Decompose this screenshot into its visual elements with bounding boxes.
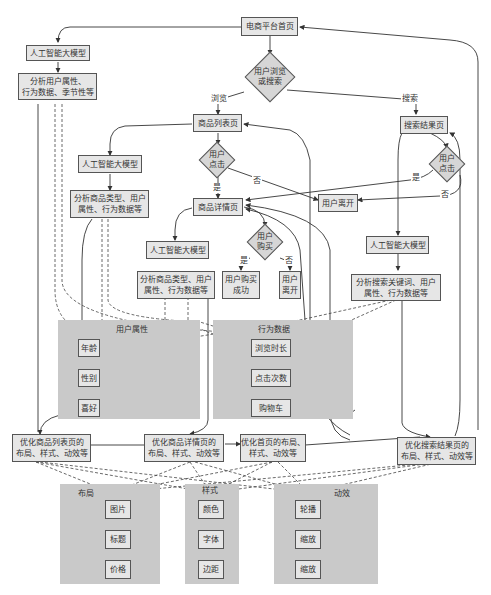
edge-label-list-no: 否	[252, 176, 262, 186]
edge-label-buy-yes: 是	[239, 256, 249, 266]
edge-label-search-yes: 是	[411, 173, 421, 183]
node-analyze-detail: 分析商品类型、用户属性、行为数据等	[137, 271, 215, 299]
group-behavior-data-label: 行为数据	[258, 323, 290, 334]
item-margin: 边距	[198, 560, 224, 579]
node-opt-detail: 优化商品详情页的布局、样式、动效等	[144, 434, 224, 462]
node-ai-model-detail: 人工智能大模型	[146, 241, 209, 259]
item-age: 年龄	[78, 339, 100, 357]
node-analyze-search: 分析搜索关键词、用户属性、行为数据等	[351, 274, 441, 301]
item-price: 价格	[105, 560, 131, 579]
node-search-result: 搜索结果页	[400, 116, 448, 134]
edge-label-list-yes: 是	[212, 183, 222, 193]
edge-label-buy-no: 否	[284, 256, 294, 266]
item-shopping-cart: 购物车	[251, 399, 291, 417]
group-animation	[274, 484, 378, 584]
item-preference: 喜好	[78, 399, 100, 417]
edge-label-search-no: 否	[440, 190, 450, 200]
group-animation-label: 动效	[334, 487, 350, 498]
group-layout-label: 布局	[78, 487, 94, 498]
item-carousel: 轮播	[295, 500, 321, 519]
edge-label-search: 搜索	[401, 94, 419, 104]
item-gender: 性别	[78, 369, 100, 387]
node-purchase-success: 用户购买成功	[222, 271, 260, 299]
item-image: 图片	[105, 500, 131, 519]
item-zoom-2: 缩放	[295, 560, 321, 579]
node-user-leave: 用户离开	[318, 194, 358, 212]
node-ai-model-home: 人工智能大模型	[26, 45, 90, 61]
item-font: 字体	[198, 530, 224, 549]
node-user-leave-purchase: 用户离开	[279, 271, 301, 299]
node-home: 电商平台首页	[241, 17, 298, 36]
node-opt-list: 优化商品列表页的布局、样式、动效等	[12, 434, 91, 462]
node-opt-search: 优化搜索结果页的布局、样式、动效等	[397, 437, 476, 465]
node-ai-model-search: 人工智能大模型	[366, 236, 429, 254]
node-analyze-list: 分析商品类型、用户属性、行为数据等	[70, 190, 149, 218]
node-product-list: 商品列表页	[193, 114, 242, 132]
group-user-attributes-label: 用户属性	[116, 323, 148, 334]
node-opt-home: 优化首页的布局、样式、动效等	[240, 434, 306, 462]
node-product-detail: 商品详情页	[193, 198, 243, 216]
node-analyze-home: 分析用户属性、行为数据、季节性等	[18, 73, 97, 100]
item-click-count: 点击次数	[251, 369, 291, 387]
item-zoom-1: 缩放	[295, 530, 321, 549]
item-browse-duration: 浏览时长	[251, 339, 291, 357]
group-style-label: 样式	[202, 484, 218, 495]
item-title: 标题	[105, 530, 131, 549]
item-color: 颜色	[198, 500, 224, 519]
edge-label-browse: 浏览	[210, 94, 228, 104]
node-ai-model-list: 人工智能大模型	[78, 155, 142, 173]
